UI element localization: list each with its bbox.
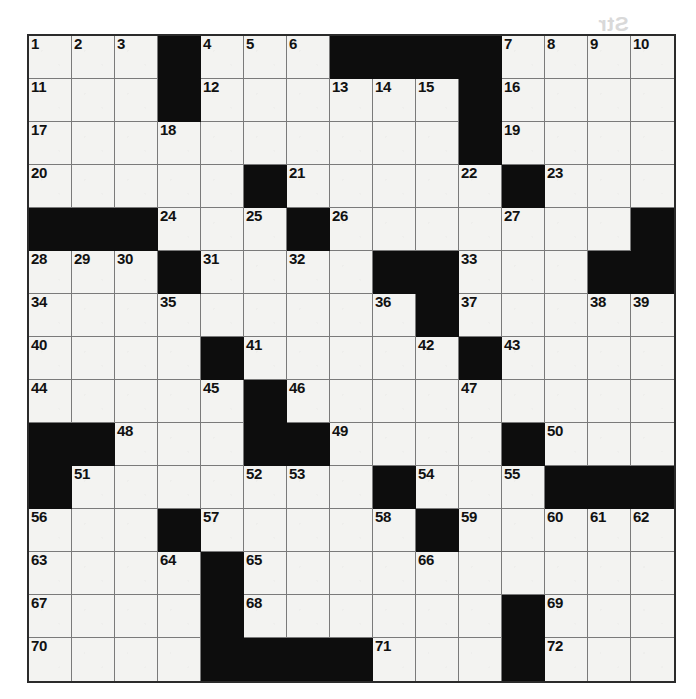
grid-letter-cell[interactable] — [631, 423, 674, 466]
grid-letter-cell[interactable] — [244, 251, 287, 294]
grid-letter-cell[interactable] — [244, 122, 287, 165]
grid-letter-cell[interactable] — [330, 337, 373, 380]
grid-letter-cell[interactable] — [244, 79, 287, 122]
grid-letter-cell[interactable]: 63 — [29, 552, 72, 595]
grid-letter-cell[interactable] — [373, 552, 416, 595]
grid-letter-cell[interactable] — [588, 165, 631, 208]
grid-letter-cell[interactable] — [201, 165, 244, 208]
grid-letter-cell[interactable] — [72, 79, 115, 122]
grid-letter-cell[interactable] — [115, 337, 158, 380]
grid-letter-cell[interactable] — [72, 638, 115, 681]
grid-letter-cell[interactable] — [330, 251, 373, 294]
grid-letter-cell[interactable] — [545, 380, 588, 423]
grid-letter-cell[interactable] — [545, 294, 588, 337]
grid-letter-cell[interactable]: 55 — [502, 466, 545, 509]
grid-letter-cell[interactable]: 34 — [29, 294, 72, 337]
grid-letter-cell[interactable] — [115, 638, 158, 681]
grid-letter-cell[interactable] — [115, 466, 158, 509]
grid-letter-cell[interactable]: 46 — [287, 380, 330, 423]
grid-letter-cell[interactable] — [72, 337, 115, 380]
grid-letter-cell[interactable] — [545, 208, 588, 251]
grid-letter-cell[interactable] — [502, 380, 545, 423]
grid-letter-cell[interactable] — [287, 337, 330, 380]
grid-letter-cell[interactable] — [545, 337, 588, 380]
grid-letter-cell[interactable]: 43 — [502, 337, 545, 380]
grid-letter-cell[interactable]: 48 — [115, 423, 158, 466]
grid-letter-cell[interactable]: 45 — [201, 380, 244, 423]
grid-letter-cell[interactable] — [373, 337, 416, 380]
grid-letter-cell[interactable]: 23 — [545, 165, 588, 208]
grid-letter-cell[interactable]: 47 — [459, 380, 502, 423]
grid-letter-cell[interactable]: 53 — [287, 466, 330, 509]
grid-letter-cell[interactable]: 7 — [502, 36, 545, 79]
grid-letter-cell[interactable] — [588, 595, 631, 638]
grid-letter-cell[interactable]: 32 — [287, 251, 330, 294]
grid-letter-cell[interactable] — [287, 79, 330, 122]
grid-letter-cell[interactable]: 40 — [29, 337, 72, 380]
grid-letter-cell[interactable]: 31 — [201, 251, 244, 294]
grid-letter-cell[interactable] — [158, 380, 201, 423]
grid-letter-cell[interactable] — [158, 466, 201, 509]
grid-letter-cell[interactable]: 54 — [416, 466, 459, 509]
grid-letter-cell[interactable]: 66 — [416, 552, 459, 595]
grid-letter-cell[interactable] — [631, 552, 674, 595]
grid-letter-cell[interactable] — [244, 509, 287, 552]
grid-letter-cell[interactable] — [201, 294, 244, 337]
grid-letter-cell[interactable]: 26 — [330, 208, 373, 251]
grid-letter-cell[interactable]: 37 — [459, 294, 502, 337]
grid-letter-cell[interactable] — [373, 595, 416, 638]
grid-letter-cell[interactable] — [373, 122, 416, 165]
grid-letter-cell[interactable] — [545, 251, 588, 294]
grid-letter-cell[interactable] — [459, 552, 502, 595]
grid-letter-cell[interactable]: 61 — [588, 509, 631, 552]
grid-letter-cell[interactable]: 24 — [158, 208, 201, 251]
grid-letter-cell[interactable]: 3 — [115, 36, 158, 79]
grid-letter-cell[interactable]: 11 — [29, 79, 72, 122]
grid-letter-cell[interactable]: 59 — [459, 509, 502, 552]
grid-letter-cell[interactable] — [588, 423, 631, 466]
grid-letter-cell[interactable]: 4 — [201, 36, 244, 79]
grid-letter-cell[interactable]: 5 — [244, 36, 287, 79]
grid-letter-cell[interactable] — [631, 638, 674, 681]
grid-letter-cell[interactable]: 30 — [115, 251, 158, 294]
grid-letter-cell[interactable] — [416, 423, 459, 466]
grid-letter-cell[interactable] — [459, 466, 502, 509]
grid-letter-cell[interactable]: 15 — [416, 79, 459, 122]
grid-letter-cell[interactable]: 65 — [244, 552, 287, 595]
grid-letter-cell[interactable] — [72, 509, 115, 552]
grid-letter-cell[interactable] — [588, 638, 631, 681]
grid-letter-cell[interactable]: 8 — [545, 36, 588, 79]
grid-letter-cell[interactable] — [201, 466, 244, 509]
grid-letter-cell[interactable]: 28 — [29, 251, 72, 294]
grid-letter-cell[interactable] — [330, 509, 373, 552]
grid-letter-cell[interactable] — [502, 294, 545, 337]
grid-letter-cell[interactable]: 21 — [287, 165, 330, 208]
grid-letter-cell[interactable]: 68 — [244, 595, 287, 638]
grid-letter-cell[interactable] — [330, 466, 373, 509]
grid-letter-cell[interactable] — [158, 595, 201, 638]
grid-letter-cell[interactable] — [459, 638, 502, 681]
grid-letter-cell[interactable] — [201, 122, 244, 165]
grid-letter-cell[interactable] — [373, 165, 416, 208]
grid-letter-cell[interactable] — [459, 595, 502, 638]
grid-letter-cell[interactable] — [330, 122, 373, 165]
grid-letter-cell[interactable] — [287, 595, 330, 638]
grid-letter-cell[interactable]: 22 — [459, 165, 502, 208]
grid-letter-cell[interactable] — [158, 638, 201, 681]
grid-letter-cell[interactable] — [459, 208, 502, 251]
grid-letter-cell[interactable]: 13 — [330, 79, 373, 122]
grid-letter-cell[interactable] — [115, 122, 158, 165]
grid-letter-cell[interactable]: 25 — [244, 208, 287, 251]
grid-letter-cell[interactable]: 10 — [631, 36, 674, 79]
grid-letter-cell[interactable]: 56 — [29, 509, 72, 552]
grid-letter-cell[interactable] — [588, 208, 631, 251]
grid-letter-cell[interactable]: 18 — [158, 122, 201, 165]
grid-letter-cell[interactable]: 72 — [545, 638, 588, 681]
grid-letter-cell[interactable] — [588, 79, 631, 122]
grid-letter-cell[interactable]: 42 — [416, 337, 459, 380]
grid-letter-cell[interactable] — [72, 552, 115, 595]
grid-letter-cell[interactable]: 57 — [201, 509, 244, 552]
grid-letter-cell[interactable] — [115, 509, 158, 552]
grid-letter-cell[interactable] — [287, 122, 330, 165]
grid-letter-cell[interactable] — [502, 552, 545, 595]
